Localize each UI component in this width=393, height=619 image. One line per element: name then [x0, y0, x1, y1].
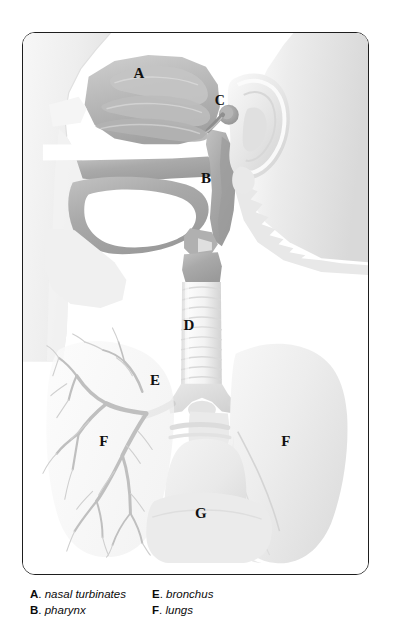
- callout-f-lung-left: F: [99, 434, 108, 449]
- legend-term-a: nasal turbinates: [45, 588, 126, 600]
- callout-f-lung-right: F: [281, 434, 290, 449]
- legend-term-b: pharynx: [45, 604, 86, 616]
- legend-term-f: lungs: [165, 604, 193, 616]
- figure-legend: A. nasal turbinates B. pharynx E. bronch…: [30, 587, 370, 617]
- legend-dot-e: .: [160, 588, 163, 600]
- legend-item-f: F. lungs: [152, 603, 302, 618]
- callout-g-diaphragm: G: [195, 506, 207, 521]
- legend-item-a: A. nasal turbinates: [30, 587, 152, 602]
- trachea-region: [181, 282, 222, 388]
- legend-item-e: E. bronchus: [152, 587, 302, 602]
- legend-column-left: A. nasal turbinates B. pharynx: [30, 587, 152, 617]
- legend-term-e: bronchus: [166, 588, 213, 600]
- legend-item-b: B. pharynx: [30, 603, 152, 618]
- legend-dot-a: .: [38, 588, 41, 600]
- legend-key-f: F: [152, 604, 159, 616]
- anatomy-figure-frame: A B C D E F F G: [22, 32, 369, 575]
- legend-column-right: E. bronchus F. lungs: [152, 587, 302, 617]
- callout-e-bronchus: E: [150, 373, 160, 388]
- callout-c-eustachian-tube: C: [215, 94, 225, 108]
- page-root: A B C D E F F G A. nasal turbinates B. p…: [0, 0, 393, 619]
- callout-b-pharynx: B: [201, 171, 211, 186]
- callout-a-nasal-turbinates: A: [133, 66, 144, 81]
- legend-dot-f: .: [159, 604, 162, 616]
- callout-d-trachea: D: [183, 318, 194, 333]
- legend-dot-b: .: [38, 604, 41, 616]
- respiratory-system-illustration: [23, 33, 368, 574]
- legend-key-e: E: [152, 588, 160, 600]
